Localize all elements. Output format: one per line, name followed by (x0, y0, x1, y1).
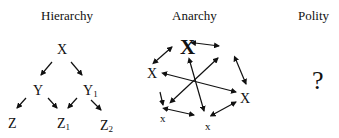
arrow-y-to-z (17, 98, 26, 108)
anarchy-node-right-x: X (240, 92, 250, 106)
arrow-x-to-y (41, 62, 52, 75)
anarchy-node-bottom-left-x: x (160, 113, 166, 124)
arrow-y1-to-z1 (68, 98, 77, 108)
anarchy-node-left-x: X (147, 67, 157, 81)
anarchy-title: Anarchy (172, 9, 217, 22)
arrow-x-to-y1 (71, 62, 82, 75)
anarchy-node-bottom-x: x (205, 121, 211, 132)
hierarchy-node-z: Z (8, 117, 17, 131)
hierarchy-node-y: Y (33, 84, 43, 98)
polity-question-mark: ? (312, 68, 324, 94)
arrow-y1-to-z2 (91, 100, 101, 110)
hierarchy-node-y1: Y1 (83, 84, 98, 99)
hierarchy-title: Hierarchy (41, 9, 93, 22)
hierarchy-node-x: X (57, 43, 67, 57)
hierarchy-node-z1: Z1 (57, 117, 70, 132)
polity-title: Polity (298, 9, 329, 22)
hierarchy-node-z2: Z2 (100, 119, 113, 134)
anarchy-node-big-x: X (180, 37, 195, 58)
arrow-y-to-z1 (48, 98, 57, 108)
